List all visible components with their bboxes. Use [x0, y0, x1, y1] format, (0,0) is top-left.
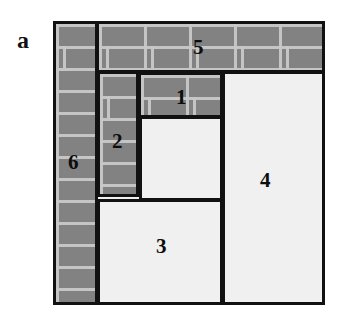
rectangle-label-4: 4 [260, 170, 271, 191]
packed-rectangle-unlabeled [139, 116, 223, 201]
rectangle-packing-figure: a 561234 [0, 0, 346, 325]
rectangle-label-3: 3 [156, 236, 167, 257]
rectangle-label-5: 5 [193, 37, 204, 58]
rectangle-label-1: 1 [176, 87, 187, 108]
packed-rectangle-5 [96, 21, 325, 73]
panel-letter: a [17, 28, 29, 52]
rectangle-label-2: 2 [112, 131, 123, 152]
rectangle-label-6: 6 [68, 152, 79, 173]
packed-rectangle-4 [222, 71, 325, 305]
